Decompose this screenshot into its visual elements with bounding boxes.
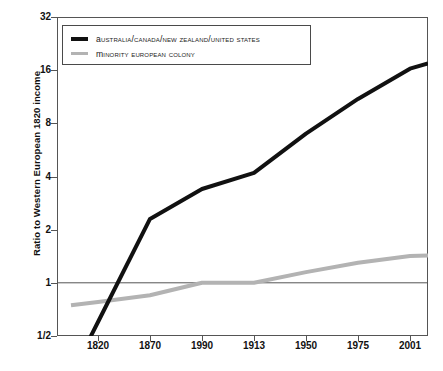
x-tick-label-1950: 1950 xyxy=(295,340,317,351)
legend-label-australia-canada-nz-us: Australia/Canada/New Zealand/United Stat… xyxy=(96,34,260,44)
chart-figure: Ratio to Western European 1820 income 32… xyxy=(0,0,443,371)
y-tick-label-8: 8 xyxy=(19,118,51,128)
x-tick-label-1990: 1990 xyxy=(191,340,213,351)
y-axis-title: Ratio to Western European 1820 income xyxy=(31,44,42,284)
series-line-minority-european-colony xyxy=(71,255,428,305)
legend-item-minority-european-colony: Minority European colony xyxy=(71,46,310,61)
x-tick-label-2001: 2001 xyxy=(399,340,421,351)
y-tick-label-4: 4 xyxy=(19,172,51,182)
series-line-australia-canada-nz-us xyxy=(71,63,428,336)
x-tick-label-1870: 1870 xyxy=(139,340,161,351)
x-tick-label-1820: 1820 xyxy=(87,340,109,351)
x-tick-label-1975: 1975 xyxy=(347,340,369,351)
legend-swatch-dark-icon xyxy=(71,37,88,41)
y-tick-label-16: 16 xyxy=(19,65,51,75)
chart-legend: Australia/Canada/New Zealand/United Stat… xyxy=(62,25,311,65)
y-tick-label-1: 1 xyxy=(19,278,51,288)
y-tick-label-half: 1/2 xyxy=(19,331,51,341)
y-tick-label-32: 32 xyxy=(19,12,51,22)
y-tick-mark-half xyxy=(51,336,57,337)
legend-swatch-gray-icon xyxy=(71,52,88,55)
legend-item-australia-canada-nz-us: Australia/Canada/New Zealand/United Stat… xyxy=(71,31,310,46)
y-tick-label-2: 2 xyxy=(19,225,51,235)
x-tick-label-1913: 1913 xyxy=(243,340,265,351)
legend-label-minority-european-colony: Minority European colony xyxy=(96,49,195,59)
